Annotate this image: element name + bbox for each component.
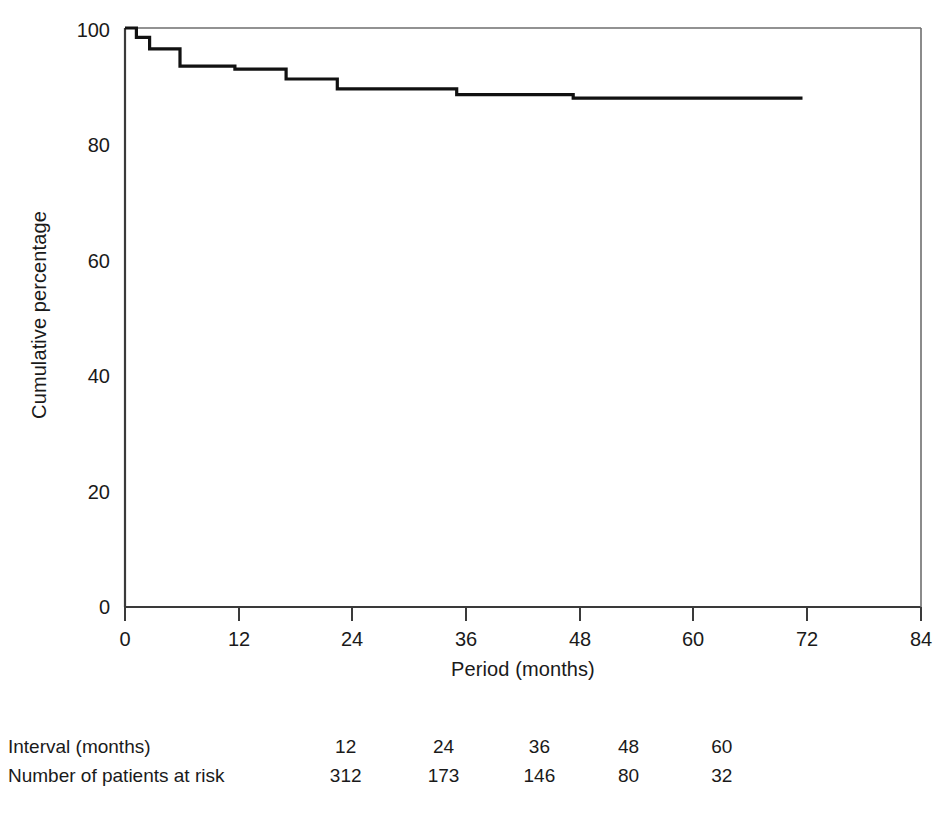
risk-table-at-risk-12: 312 (302, 762, 390, 791)
survival-step-curve (125, 28, 803, 98)
plot-area (0, 0, 941, 700)
x-tick-label-12: 12 (228, 628, 250, 651)
risk-table-interval-12: 12 (302, 733, 390, 762)
y-axis-title: Cumulative percentage (22, 5, 56, 625)
risk-table-at-risk-24: 173 (389, 762, 497, 791)
x-tick-label-36: 36 (455, 628, 477, 651)
x-axis-title: Period (months) (125, 658, 921, 681)
y-tick-label-0: 0 (48, 596, 110, 619)
table-row-at-risk: Number of patients at risk 312 173 146 8… (8, 762, 768, 791)
x-tick-label-84: 84 (910, 628, 932, 651)
y-tick-label-60: 60 (48, 250, 110, 273)
axis-frame (125, 28, 921, 607)
risk-table-interval-36: 36 (497, 733, 581, 762)
y-tick-label-20: 20 (48, 481, 110, 504)
risk-table-at-risk-36: 146 (497, 762, 581, 791)
y-tick-label-40: 40 (48, 365, 110, 388)
risk-table-interval-60: 60 (676, 733, 768, 762)
x-tick-label-24: 24 (341, 628, 363, 651)
y-tick-label-80: 80 (48, 134, 110, 157)
x-tick-label-60: 60 (682, 628, 704, 651)
risk-table-interval-24: 24 (389, 733, 497, 762)
x-tick-marks (125, 607, 921, 621)
y-tick-label-100: 100 (48, 19, 110, 42)
table-row-interval: Interval (months) 12 24 36 48 60 (8, 733, 768, 762)
survival-chart-figure: 100 80 60 40 20 0 0 12 24 36 48 60 72 84… (0, 0, 941, 818)
risk-table-row-label-at-risk: Number of patients at risk (8, 762, 302, 791)
risk-table-row-label-interval: Interval (months) (8, 733, 302, 762)
risk-table-at-risk-60: 32 (676, 762, 768, 791)
number-at-risk-table: Interval (months) 12 24 36 48 60 Number … (8, 733, 933, 791)
x-tick-label-72: 72 (796, 628, 818, 651)
risk-table-interval-48: 48 (581, 733, 675, 762)
x-tick-label-0: 0 (119, 628, 130, 651)
risk-table-at-risk-48: 80 (581, 762, 675, 791)
x-tick-label-48: 48 (569, 628, 591, 651)
